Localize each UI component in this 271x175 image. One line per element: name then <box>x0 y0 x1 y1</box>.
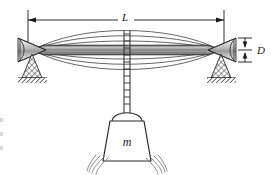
hanger-rod <box>124 31 130 113</box>
span-label: L <box>121 11 128 23</box>
mass-label: m <box>123 135 132 149</box>
deflection-arrow-up <box>243 52 248 59</box>
motion-line-l4 <box>96 158 108 174</box>
left-ground-fill <box>18 78 47 83</box>
main-beam <box>30 45 222 55</box>
beam-vibration-figure: L <box>0 0 271 175</box>
deflection-arrow-down <box>243 42 248 49</box>
span-arrow-right <box>216 17 224 22</box>
page-edge-artifact <box>0 132 3 136</box>
left-ground-hatch <box>18 78 47 83</box>
figure-canvas: L <box>0 0 271 175</box>
hanging-mass: m <box>103 113 151 161</box>
motion-line-l1 <box>87 155 96 171</box>
motion-line-r1 <box>158 155 167 171</box>
motion-line-r3 <box>150 157 162 173</box>
page-edge-artifact <box>0 118 3 122</box>
motion-line-l3 <box>92 157 104 173</box>
right-knife-edge-support <box>208 38 236 78</box>
span-arrow-left <box>28 17 36 22</box>
mass-handle-arc <box>112 113 142 121</box>
left-knife-edge-support <box>18 38 46 78</box>
right-ground-fill <box>207 78 236 83</box>
motion-line-r4 <box>146 158 158 174</box>
deflection-dimension-D: D <box>238 38 265 62</box>
deflection-label: D <box>256 44 265 56</box>
page-edge-artifact <box>0 146 3 150</box>
right-ground-hatch <box>207 78 236 83</box>
hanger-rod-rungs <box>124 34 130 104</box>
